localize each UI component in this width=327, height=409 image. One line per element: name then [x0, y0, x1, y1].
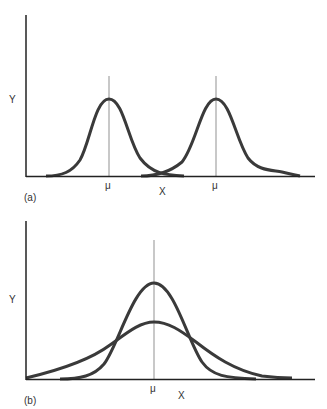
panel-a-label: (a) [24, 193, 36, 203]
panel-b-label: (b) [24, 396, 36, 406]
panel-a-curve-2 [141, 99, 300, 176]
panel-b-curve-narrow [60, 283, 256, 379]
panel-b-x-axis-label: X [178, 391, 185, 401]
panel-a-plot [26, 15, 315, 177]
panel-a-mu-tick-1: μ [105, 181, 111, 191]
figure-canvas [0, 0, 327, 409]
panel-a-curve-1 [46, 99, 184, 176]
panel-a-x-axis-label: X [159, 187, 166, 197]
panel-a-y-axis-label: Y [9, 95, 16, 105]
panel-a-mu-tick-2: μ [212, 181, 218, 191]
panel-b-curve-wide [26, 322, 292, 378]
panel-b-y-axis-label: Y [9, 295, 16, 305]
panel-b-mu-tick: μ [150, 384, 156, 394]
panel-b-plot [26, 221, 315, 380]
